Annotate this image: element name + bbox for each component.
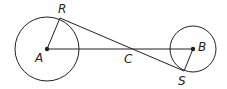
- segment-ar: [47, 18, 60, 49]
- diagram-canvas: R A C B S: [0, 0, 227, 89]
- label-r: R: [58, 3, 66, 15]
- point-a-dot: [45, 47, 49, 51]
- label-s: S: [178, 75, 186, 87]
- point-b-dot: [191, 47, 195, 51]
- geometry-figure: [0, 0, 227, 89]
- label-a: A: [35, 52, 43, 64]
- label-b: B: [198, 41, 206, 53]
- label-c: C: [124, 53, 132, 65]
- segment-bs: [184, 49, 193, 71]
